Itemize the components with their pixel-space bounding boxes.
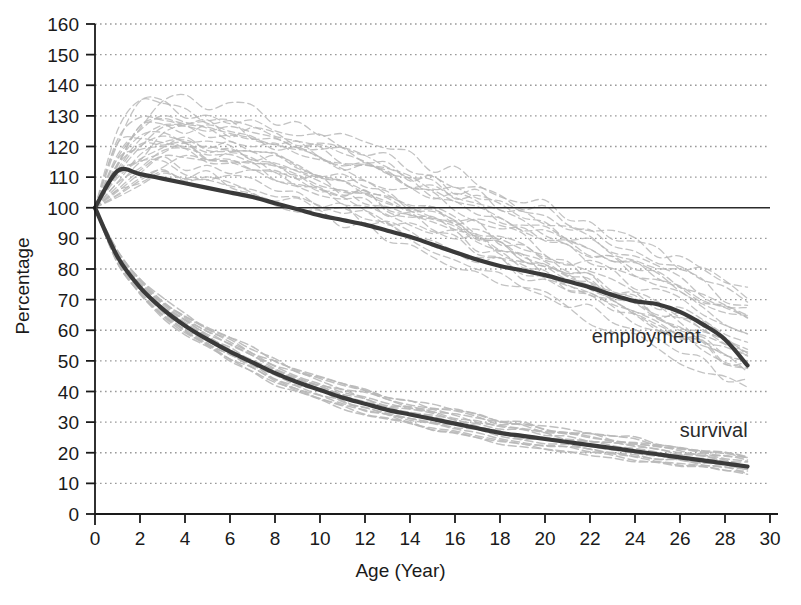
x-tick-label-26: 26 [669, 528, 690, 549]
y-tick-label-80: 80 [58, 259, 79, 280]
x-tick-label-16: 16 [444, 528, 465, 549]
x-tick-label-28: 28 [714, 528, 735, 549]
annotation-survival: survival [680, 419, 748, 441]
x-tick-label-10: 10 [309, 528, 330, 549]
annotation-employment: employment [592, 325, 701, 347]
cohort-line-employment [95, 170, 748, 387]
y-tick-label-100: 100 [47, 198, 79, 219]
y-tick-label-0: 0 [68, 504, 79, 525]
cohort-line-employment [95, 140, 748, 356]
y-tick-label-150: 150 [47, 45, 79, 66]
y-tick-label-40: 40 [58, 382, 79, 403]
x-tick-label-2: 2 [135, 528, 146, 549]
x-tick-label-12: 12 [354, 528, 375, 549]
x-tick-label-22: 22 [579, 528, 600, 549]
x-tick-label-20: 20 [534, 528, 555, 549]
y-tick-label-70: 70 [58, 290, 79, 311]
x-tick-label-18: 18 [489, 528, 510, 549]
chart-canvas: 0102030405060708090100110120130140150160… [0, 0, 801, 605]
y-axis-title: Percentage [12, 216, 34, 356]
y-tick-label-50: 50 [58, 351, 79, 372]
y-tick-label-20: 20 [58, 443, 79, 464]
y-tick-label-30: 30 [58, 412, 79, 433]
annotations-group: employmentsurvival [592, 325, 748, 442]
x-tick-label-24: 24 [624, 528, 646, 549]
y-tick-label-110: 110 [49, 167, 79, 188]
x-axis-title: Age (Year) [0, 560, 801, 582]
y-tick-label-130: 130 [47, 106, 79, 127]
y-tick-label-120: 120 [47, 137, 79, 158]
x-tick-label-14: 14 [399, 528, 421, 549]
x-tick-label-4: 4 [180, 528, 191, 549]
x-tick-label-8: 8 [270, 528, 281, 549]
cohort-line-employment [95, 137, 748, 356]
cohort-line-employment [95, 171, 748, 382]
x-tick-label-30: 30 [759, 528, 780, 549]
y-tick-label-60: 60 [58, 320, 79, 341]
cohort-line-employment [95, 126, 748, 316]
chart-figure: 0102030405060708090100110120130140150160… [0, 0, 801, 605]
x-tick-label-6: 6 [225, 528, 236, 549]
cohort-line-employment [95, 125, 748, 318]
y-tick-label-90: 90 [58, 228, 79, 249]
x-tick-label-0: 0 [90, 528, 101, 549]
y-tick-label-160: 160 [47, 14, 79, 35]
y-tick-label-140: 140 [47, 75, 79, 96]
y-tick-label-10: 10 [58, 473, 79, 494]
axes-group: 0102030405060708090100110120130140150160… [47, 14, 780, 549]
